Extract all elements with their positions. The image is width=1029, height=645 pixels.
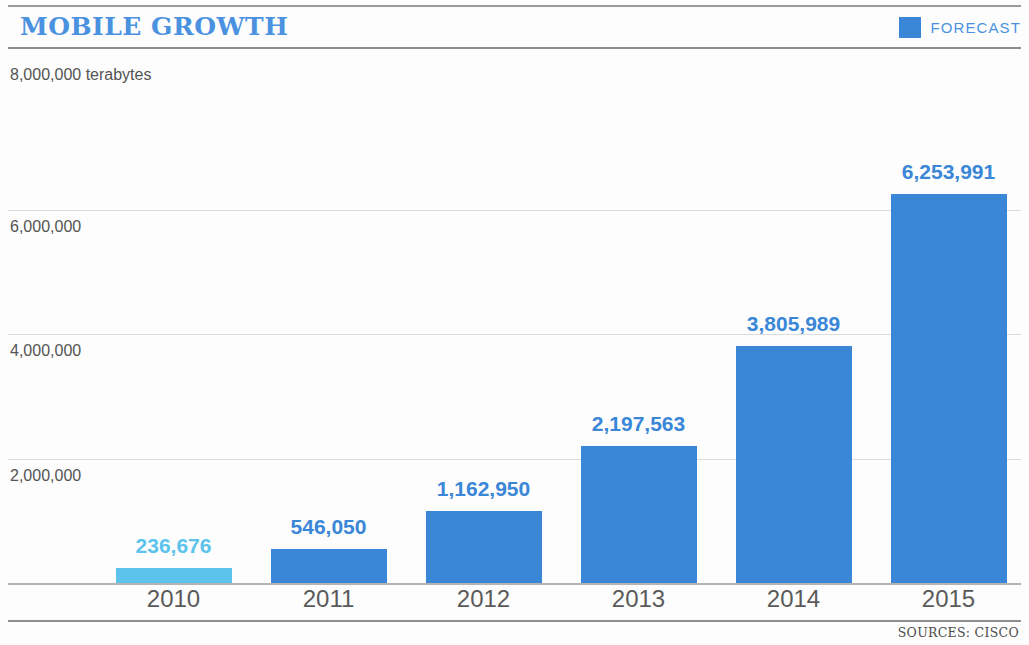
legend-label-forecast: FORECAST: [931, 19, 1021, 36]
bar-value-2013: 2,197,563: [561, 412, 716, 436]
x-tick-2011: 2011: [251, 585, 406, 613]
top-divider: [8, 5, 1021, 7]
page-title: MOBILE GROWTH: [20, 12, 288, 41]
chart-legend: FORECAST: [899, 17, 1021, 38]
gridline: [8, 210, 1021, 211]
bottom-divider: [8, 620, 1021, 622]
bar-2015: [891, 194, 1007, 583]
x-tick-2012: 2012: [406, 585, 561, 613]
bar-value-2012: 1,162,950: [406, 477, 561, 501]
legend-swatch-forecast: [899, 17, 921, 38]
bar-2012: [426, 511, 542, 583]
chart-plot-area: 8,000,000 terabytes 6,000,0004,000,0002,…: [0, 49, 1029, 585]
x-tick-2015: 2015: [871, 585, 1026, 613]
x-tick-2014: 2014: [716, 585, 871, 613]
x-tick-2013: 2013: [561, 585, 716, 613]
y-axis-caption: 8,000,000 terabytes: [10, 66, 151, 84]
bar-2010: [116, 568, 232, 583]
bar-value-2010: 236,676: [96, 534, 251, 558]
bar-value-2014: 3,805,989: [716, 312, 871, 336]
bar-2011: [271, 549, 387, 583]
bar-value-2015: 6,253,991: [871, 160, 1026, 184]
x-axis-labels: 201020112012201320142015: [0, 585, 1029, 620]
bar-2014: [736, 346, 852, 583]
bar-2013: [581, 446, 697, 583]
gridline: [8, 459, 1021, 460]
y-tick-label: 4,000,000: [10, 342, 81, 360]
y-tick-label: 6,000,000: [10, 218, 81, 236]
infographic-container: MOBILE GROWTH FORECAST 8,000,000 terabyt…: [0, 0, 1029, 645]
x-tick-2010: 2010: [96, 585, 251, 613]
source-attribution: SOURCES: CISCO: [898, 625, 1019, 640]
bar-value-2011: 546,050: [251, 515, 406, 539]
y-tick-label: 2,000,000: [10, 467, 81, 485]
